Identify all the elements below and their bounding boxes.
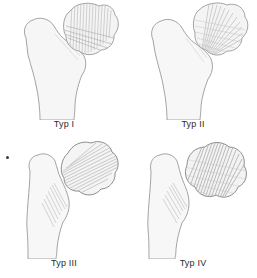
panel-typ-1: Typ I <box>0 0 128 139</box>
panel-caption-typ-4: Typ IV <box>129 257 257 269</box>
panel-typ-4: Typ IV <box>129 139 257 278</box>
panel-caption-typ-1: Typ I <box>0 118 128 130</box>
bone-illustration-typ-4 <box>129 139 257 259</box>
figure-root: Typ I <box>0 0 257 278</box>
bone-illustration-typ-1 <box>0 0 128 120</box>
panel-typ-3: Typ III <box>0 139 128 278</box>
panel-caption-typ-3: Typ III <box>0 257 128 269</box>
panel-caption-typ-2: Typ II <box>129 118 257 130</box>
bone-illustration-typ-2 <box>129 0 257 120</box>
edge-marker-dot <box>6 156 9 159</box>
bone-illustration-typ-3 <box>0 139 128 259</box>
femoral-shaft-typ-4 <box>148 154 189 259</box>
panel-typ-2: Typ II <box>129 0 257 139</box>
